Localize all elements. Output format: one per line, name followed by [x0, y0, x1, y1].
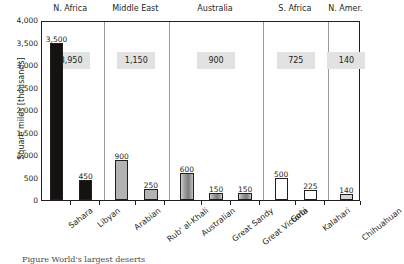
bar-gobi: [275, 178, 288, 201]
x-tick-mark: [360, 201, 361, 205]
bar-value-label: 150: [225, 185, 265, 194]
group-total-box: 140: [327, 52, 365, 69]
y-tick-label: 0: [4, 197, 38, 205]
bar-value-label: 225: [290, 182, 330, 191]
group-header-row: N. Africa Middle East Australia S. Afric…: [41, 3, 360, 18]
y-tick-label: 3,000: [4, 62, 38, 70]
bar-value-label: 900: [102, 152, 142, 161]
group-total-box: 725: [277, 52, 315, 69]
y-tick-label: 4,000: [4, 17, 38, 25]
bar-libyan: [79, 180, 92, 200]
bar-australian: [180, 173, 193, 200]
x-axis-label: Libyan: [95, 206, 121, 229]
figure-caption: Figure World's largest deserts: [22, 255, 352, 264]
bar-value-label: 600: [167, 165, 207, 174]
x-tick-mark: [201, 201, 202, 205]
group-separator-line: [328, 22, 329, 200]
bar-value-label: 3,500: [37, 35, 77, 44]
x-axis-label: Kalahari: [321, 206, 352, 233]
x-tick-mark: [70, 201, 71, 205]
x-tick-mark: [259, 201, 260, 205]
x-tick-mark: [230, 201, 231, 205]
y-tick-label: 2,500: [4, 85, 38, 93]
bar-sahara: [50, 43, 63, 201]
y-tick-label: 500: [4, 175, 38, 183]
x-axis-label: Chihuahuan: [361, 206, 404, 243]
bar-great-sandy: [209, 193, 222, 200]
y-tick-label: 1,500: [4, 130, 38, 138]
bar-arabian: [115, 160, 128, 201]
x-axis-label: Arabian: [132, 206, 162, 232]
x-tick-mark: [99, 201, 100, 205]
group-total-box: 900: [197, 52, 235, 69]
y-axis-ticks: 05001,0001,5002,0002,5003,0003,5004,000: [0, 0, 38, 264]
bar-value-label: 250: [131, 181, 171, 190]
bar-rub-al-khali: [144, 189, 157, 200]
x-axis-label: Sahara: [67, 206, 95, 230]
y-tick-label: 1,000: [4, 152, 38, 160]
x-tick-mark: [164, 201, 165, 205]
x-tick-mark: [295, 201, 296, 205]
bar-value-label: 140: [326, 186, 366, 195]
group-header-n-amer: N. Amer.: [295, 3, 395, 14]
plot-area: 3,9501,1509007251403,5004509002506001501…: [41, 21, 360, 201]
x-axis-label: Rub' al-Khali: [165, 206, 210, 244]
group-total-box: 1,150: [117, 52, 155, 69]
bar-value-label: 500: [261, 170, 301, 179]
x-tick-mark: [135, 201, 136, 205]
bar-value-label: 450: [66, 172, 106, 181]
y-tick-label: 3,500: [4, 40, 38, 48]
y-tick-label: 2,000: [4, 107, 38, 115]
bar-great-victoria: [238, 193, 251, 200]
x-axis-label: Gobi: [289, 206, 309, 224]
x-tick-mark: [324, 201, 325, 205]
bar-kalahari: [304, 190, 317, 200]
